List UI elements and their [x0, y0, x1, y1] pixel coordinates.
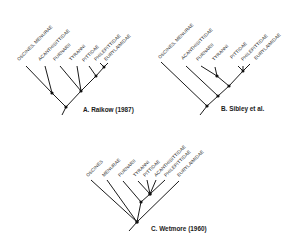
tree-c-branch-furnarii: [123, 181, 141, 202]
tree-b-node: [242, 70, 245, 73]
tree-b-branch: [218, 86, 229, 96]
tree-a-node-root: [64, 105, 67, 108]
tree-a-node: [95, 75, 98, 78]
tree-c-branch-acanthisittidae: [150, 180, 156, 194]
cladogram-figure: OSCINES, MENURAE ACANTHISITTIDAE FURNARI…: [0, 0, 304, 242]
tree-b-node-root: [205, 104, 208, 107]
tree-a-node: [103, 66, 106, 69]
tree-b: OSCINES, MENURAE ACANTHISITTIDAE FURNARI…: [157, 22, 282, 115]
tree-c-node-root: [135, 220, 139, 224]
tree-b-node: [216, 94, 219, 97]
tree-b-branch: [229, 71, 243, 86]
tree-b-branch: [217, 76, 229, 86]
tree-b-branch-acanthisittidae: [186, 66, 218, 96]
tree-a-node: [79, 89, 82, 92]
tree-b-node: [227, 84, 230, 87]
tree-c-branch: [141, 194, 150, 202]
tree-a-branch: [52, 93, 66, 107]
tree-b-branch: [207, 96, 218, 106]
tree-c-branch-oscines: [91, 180, 137, 222]
tree-a-node: [50, 91, 53, 94]
tree-c-stem: [129, 222, 137, 231]
tree-b-branch-oscines: [161, 62, 207, 106]
tree-c: OSCINES MENURAE FURNARII TYRANNI PITTIDA…: [85, 144, 206, 233]
tree-a-branch: [81, 76, 96, 91]
tree-a-branch: [66, 91, 81, 107]
tree-a: OSCINES, MENURAE ACANTHISITTIDAE FURNARI…: [16, 24, 134, 115]
tree-c-caption: C. Wetmore (1960): [151, 225, 207, 233]
tree-b-stem: [200, 106, 207, 115]
tree-c-node: [148, 192, 152, 196]
tree-c-node: [139, 200, 142, 203]
tree-a-branch-pittidae: [89, 66, 96, 76]
tree-a-branch: [96, 67, 104, 76]
tree-b-caption: B. Sibley et al.: [221, 105, 265, 113]
tree-c-branch-menurae: [107, 180, 137, 222]
tree-a-caption: A. Raikow (1987): [83, 106, 134, 114]
tree-b-node: [215, 74, 218, 77]
tree-c-branch-philepittidae: [150, 180, 165, 194]
tree-a-tip-label: OSCINES, MENURAE: [16, 24, 53, 61]
